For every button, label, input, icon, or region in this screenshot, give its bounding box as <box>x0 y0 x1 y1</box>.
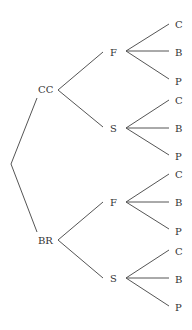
cc-f-edges <box>126 24 169 79</box>
node-cc-s: S <box>110 123 117 134</box>
leaf-br-f-c: C <box>175 169 183 180</box>
tree-diagram: CC BR F S F S C B P C B P C B P <box>0 0 192 330</box>
leaf-br-f-p: P <box>175 226 182 237</box>
edge-br-f <box>58 202 103 240</box>
cc-s-edges <box>126 100 169 155</box>
edge-br-s <box>58 240 103 278</box>
br-f-edges <box>126 174 169 229</box>
leaf-br-s-c: C <box>175 246 183 257</box>
cc-edges <box>58 52 103 127</box>
edge-cc-f <box>58 52 103 90</box>
node-br: BR <box>38 235 53 246</box>
node-br-s: S <box>110 273 117 284</box>
leaf-br-s-b: B <box>175 274 182 285</box>
leaf-cc-s-p: P <box>175 151 182 162</box>
root-edges <box>11 98 37 232</box>
leaf-cc-s-b: B <box>175 123 182 134</box>
leaf-cc-f-p: P <box>175 76 182 87</box>
br-edges <box>58 202 103 278</box>
node-cc: CC <box>38 84 54 95</box>
leaf-cc-f-b: B <box>175 47 182 58</box>
leaf-cc-f-c: C <box>175 19 183 30</box>
leaf-br-s-p: P <box>175 302 182 313</box>
leaf-br-f-b: B <box>175 197 182 208</box>
leaf-cc-s-c: C <box>175 95 183 106</box>
edge-root-br <box>11 164 37 232</box>
edge-root-cc <box>11 98 37 164</box>
edge-cc-s <box>58 90 103 127</box>
node-br-f: F <box>110 197 117 208</box>
br-s-edges <box>126 250 169 306</box>
node-cc-f: F <box>110 47 117 58</box>
